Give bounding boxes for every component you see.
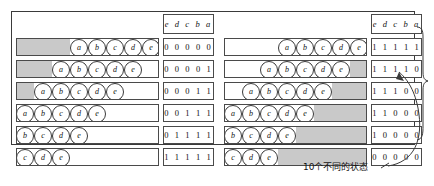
flipflop-c: c — [314, 39, 332, 56]
flipflop-d: d — [70, 105, 88, 122]
binary-value-cell: 1 1 0 0 0 — [371, 104, 422, 122]
flipflop-a: a — [52, 61, 70, 78]
shaded-region — [17, 61, 52, 77]
flipflop-group: abcde — [224, 149, 278, 166]
flipflop-e: e — [52, 149, 70, 166]
register-cells: abcde — [16, 82, 159, 100]
flipflop-d: d — [296, 83, 314, 100]
binary-value-cell: 1 0 0 0 0 — [371, 126, 422, 144]
register-cells: abcde — [224, 126, 367, 144]
binary-value-cell: 1 1 1 1 0 — [371, 60, 422, 78]
register-cells: abcde — [16, 126, 159, 144]
binary-value-cell: 1 1 1 1 1 — [163, 148, 214, 166]
binary-value-cell: 0 0 0 0 0 — [371, 148, 422, 166]
figure-caption: 10个不同的状态 — [303, 160, 368, 173]
flipflop-d: d — [332, 39, 350, 56]
flipflop-e: e — [260, 149, 278, 166]
register-cells: abcde — [224, 104, 367, 122]
register-cells: abcde — [16, 38, 159, 56]
flipflop-a: a — [278, 39, 296, 56]
binary-value-cell: 1 1 1 0 0 — [371, 82, 422, 100]
shaded-region — [17, 39, 70, 55]
flipflop-d: d — [278, 105, 296, 122]
flipflop-group: abcde — [16, 127, 88, 144]
flipflop-b: b — [296, 39, 314, 56]
flipflop-c: c — [70, 83, 88, 100]
flipflop-b: b — [278, 61, 296, 78]
flipflop-c: c — [242, 127, 260, 144]
flipflop-c: c — [34, 127, 52, 144]
register-cells: abcde — [224, 38, 367, 56]
right-table-header-edcba: e d c b a — [371, 14, 422, 34]
flipflop-e: e — [278, 127, 296, 144]
flipflop-c: c — [260, 105, 278, 122]
flipflop-group: abcde — [70, 39, 159, 56]
flipflop-b: b — [242, 105, 260, 122]
flipflop-group: abcde — [16, 149, 70, 166]
flipflop-d: d — [52, 127, 70, 144]
binary-value-cell: 0 0 0 0 0 — [163, 38, 214, 56]
flipflop-e: e — [142, 39, 159, 56]
flipflop-c: c — [106, 39, 124, 56]
flipflop-b: b — [88, 39, 106, 56]
flipflop-a: a — [224, 105, 242, 122]
binary-value-cell: 0 0 0 1 1 — [163, 82, 214, 100]
flipflop-b: b — [70, 61, 88, 78]
flipflop-group: abcde — [224, 127, 296, 144]
flipflop-d: d — [106, 61, 124, 78]
flipflop-c: c — [296, 61, 314, 78]
flipflop-c: c — [52, 105, 70, 122]
flipflop-b: b — [52, 83, 70, 100]
shaded-region — [314, 105, 367, 121]
flipflop-a: a — [242, 83, 260, 100]
left-table-header-edcba: e d c b a — [163, 14, 214, 34]
register-cells: abcde — [16, 148, 159, 166]
flipflop-b: b — [16, 127, 34, 144]
binary-value-cell: 1 1 1 1 1 — [371, 38, 422, 56]
flipflop-e: e — [70, 127, 88, 144]
flipflop-group: abcde — [52, 61, 142, 78]
flipflop-a: a — [16, 105, 34, 122]
flipflop-group: abcde — [224, 105, 314, 122]
flipflop-c: c — [88, 61, 106, 78]
register-cells: abcde — [16, 104, 159, 122]
flipflop-b: b — [34, 105, 52, 122]
flipflop-d: d — [124, 39, 142, 56]
flipflop-group: abcde — [34, 83, 124, 100]
flipflop-a: a — [34, 83, 52, 100]
flipflop-c: c — [16, 149, 34, 166]
flipflop-d: d — [88, 83, 106, 100]
register-cells: abcde — [224, 60, 367, 78]
flipflop-c: c — [278, 83, 296, 100]
binary-value-cell: 0 0 0 0 1 — [163, 60, 214, 78]
register-cells: abcde — [224, 82, 367, 100]
flipflop-group: abcde — [16, 105, 106, 122]
flipflop-e: e — [314, 83, 332, 100]
flipflop-e: e — [88, 105, 106, 122]
flipflop-c: c — [224, 149, 242, 166]
binary-value-cell: 0 1 1 1 1 — [163, 126, 214, 144]
flipflop-e: e — [106, 83, 124, 100]
flipflop-e: e — [124, 61, 142, 78]
flipflop-group: abcde — [278, 39, 367, 56]
shaded-region — [332, 83, 367, 99]
flipflop-d: d — [260, 127, 278, 144]
shaded-region — [296, 127, 367, 143]
flipflop-group: abcde — [260, 61, 350, 78]
shaded-region — [350, 61, 367, 77]
shaded-region — [17, 83, 34, 99]
flipflop-b: b — [224, 127, 242, 144]
flipflop-d: d — [242, 149, 260, 166]
flipflop-e: e — [332, 61, 350, 78]
flipflop-d: d — [34, 149, 52, 166]
flipflop-e: e — [350, 39, 367, 56]
binary-value-cell: 0 0 1 1 1 — [163, 104, 214, 122]
flipflop-a: a — [260, 61, 278, 78]
register-cells: abcde — [16, 60, 159, 78]
flipflop-b: b — [260, 83, 278, 100]
flipflop-group: abcde — [242, 83, 332, 100]
figure-canvas: e d c b a abcde0 0 0 0 0abcde0 0 0 0 1ab… — [0, 0, 434, 186]
flipflop-d: d — [314, 61, 332, 78]
flipflop-e: e — [296, 105, 314, 122]
flipflop-a: a — [70, 39, 88, 56]
